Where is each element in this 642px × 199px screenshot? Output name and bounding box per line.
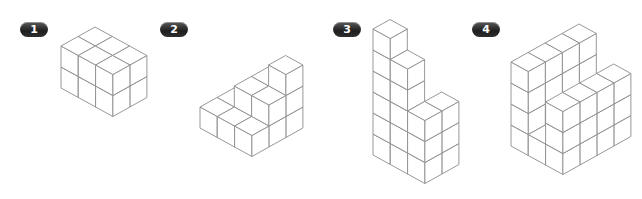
cube-figure-4 <box>511 24 631 175</box>
cube-figure-2 <box>200 56 303 157</box>
cube-figures-canvas <box>0 0 642 199</box>
figure-3-badge: 3 <box>333 22 361 37</box>
figure-4-badge: 4 <box>472 22 500 37</box>
figure-2-badge: 2 <box>160 22 188 37</box>
cube-figure-1 <box>61 27 147 117</box>
figure-1-badge: 1 <box>20 22 48 37</box>
cube-figure-3 <box>373 20 459 184</box>
